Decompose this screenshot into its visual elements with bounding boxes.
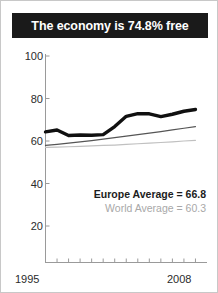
x-tick-marks — [46, 259, 196, 263]
chart-card: The economy is 74.8% free 20406080100 19… — [0, 0, 218, 293]
x-axis-label-start: 1995 — [15, 273, 39, 285]
plot-area: 20406080100 1995 2008 — [1, 1, 218, 293]
y-tick-marks — [46, 56, 50, 226]
legend-world-average: World Average = 60.3 — [105, 202, 206, 214]
chart-svg — [1, 1, 218, 293]
legend-europe-average: Europe Average = 66.8 — [94, 188, 206, 200]
series-group — [46, 110, 196, 148]
y-tick-label: 100 — [17, 50, 43, 62]
y-tick-label: 60 — [17, 135, 43, 147]
axis-group — [46, 54, 208, 263]
series-line-country — [46, 110, 196, 136]
y-tick-label: 40 — [17, 178, 43, 190]
y-tick-label: 20 — [17, 220, 43, 232]
series-line-world — [46, 140, 196, 147]
x-axis-label-end: 2008 — [167, 273, 191, 285]
y-tick-label: 80 — [17, 93, 43, 105]
